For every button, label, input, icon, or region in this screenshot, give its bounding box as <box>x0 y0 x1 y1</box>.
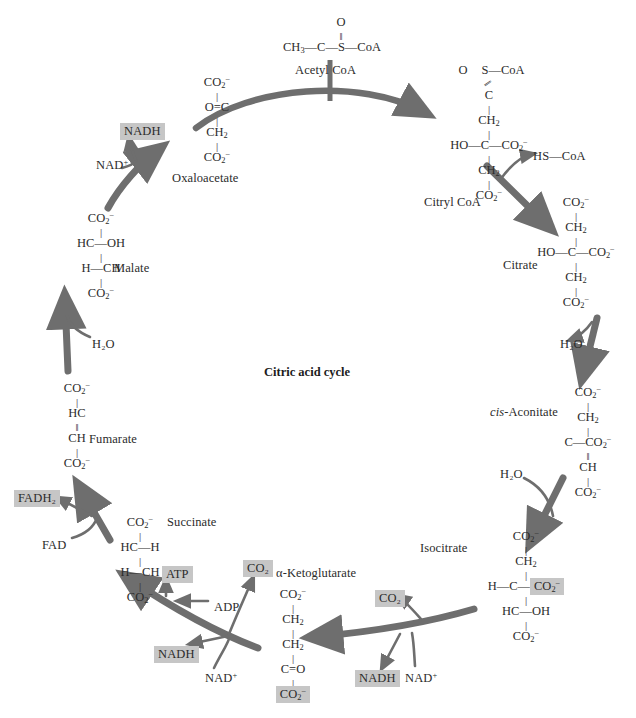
cofactor-label-text: NAD+ <box>405 671 437 685</box>
cofactor-co2-isocitrate: CO₂ <box>375 592 405 605</box>
structure-citryl-coa: O S—CoA ‖ C | CH2 | HO—C—CO2− | CH2 | CO… <box>424 64 554 204</box>
aconitate-ch: CH <box>540 461 636 476</box>
acetyl-coa-atom-o: O <box>290 16 392 31</box>
cofactor-label-text: H₂O <box>500 467 523 481</box>
cofactor-charge: + <box>232 671 237 680</box>
arrow-nad-input-ketoglutarate <box>214 636 230 668</box>
cofactor-h2o-isocitrate: H₂O <box>500 468 523 481</box>
label-isocitrate: Isocitrate <box>420 542 468 555</box>
label-acetyl-coa: Acetyl CoA <box>295 64 356 77</box>
cofactor-label-text: FADH₂ <box>14 490 60 507</box>
cofactor-label-text: FAD <box>42 538 66 552</box>
label-alpha-ketoglutarate: α-Ketoglutarate <box>276 567 356 580</box>
structure-citrate: CO2− | CH2 | HO—C—CO2− | CH2 | CO2− <box>516 196 636 311</box>
arrow-nadh-output-malate <box>129 138 136 160</box>
citrylcoa-ch2-b: CH2 <box>424 164 554 179</box>
cofactor-nadh-isocitrate: NADH <box>355 672 400 685</box>
cofactor-charge: + <box>123 158 128 167</box>
fumarate-c1: CO2− <box>44 382 110 397</box>
structure-malate: CO2− | HC—OH | H—CH | CO2− <box>62 212 140 302</box>
cofactor-fad: FAD <box>42 539 66 552</box>
structure-isocitrate: CO2− | CH2 | H—C—CO2− | HC—OH | CO2− <box>466 530 586 645</box>
succinate-c-terminal: CO2− <box>100 591 180 606</box>
label-cis-aconitate: cis-Aconitate <box>490 406 558 419</box>
isocitrate-c1: CO2− <box>466 530 586 545</box>
label-citrate: Citrate <box>503 259 538 272</box>
label-citryl-coa: Citryl CoA <box>424 196 481 209</box>
structure-fumarate: CO2− | HC ‖ CH | CO2− <box>44 382 110 472</box>
aconitate-c-terminal: CO2− <box>540 486 636 501</box>
cofactor-charge: + <box>432 671 437 680</box>
oaa-c1: CO2− <box>178 76 256 91</box>
akg-ch2-b: CH2 <box>258 638 328 653</box>
cofactor-nadh-ketoglutarate: NADH <box>154 648 199 661</box>
cofactor-label-text: CO₂ <box>243 560 273 577</box>
fumarate-hc: HC <box>44 407 110 422</box>
malate-c-terminal: CO2− <box>62 287 140 302</box>
structure-acetyl-coa: O ‖ CH3—C—S—CoA <box>272 16 392 56</box>
oaa-c4: CO2− <box>178 151 256 166</box>
structure-oxaloacetate: CO2− | O=C | CH2 | CO2− <box>178 76 256 166</box>
citrylcoa-carbonyl-c: C <box>424 89 554 104</box>
arrow-nad-input-isocitrate <box>412 633 415 666</box>
oaa-c2: O=C <box>178 101 256 116</box>
malate-hcoh: HC—OH <box>62 237 140 252</box>
label-aconitate-rest: -Aconitate <box>504 405 558 419</box>
cofactor-hs-coa: HS—CoA <box>533 150 586 163</box>
cofactor-label-text: H₂O <box>92 337 115 351</box>
cofactor-fadh2: FADH₂ <box>14 492 60 505</box>
arrow-h2o-input-malate <box>67 316 90 337</box>
citrate-c1: CO2− <box>516 196 636 211</box>
citrylcoa-thioester-head: O S—CoA <box>424 64 554 79</box>
isocitrate-highlighted-carboxylate: CO2− <box>530 578 564 595</box>
arrow-nadh-output-ketoglutarate <box>190 636 228 644</box>
cofactor-label-text: NAD+ <box>96 158 128 172</box>
diagram-center-title: Citric acid cycle <box>264 365 350 380</box>
label-cis-prefix: cis <box>490 405 504 419</box>
cofactor-h2o-fumarate: H₂O <box>92 338 115 351</box>
cofactor-nadh-malate: NADH <box>120 125 165 138</box>
label-fumarate: Fumarate <box>89 433 137 446</box>
cofactor-h2o-citrate: H₂O <box>560 338 583 351</box>
aconitate-central-c: C—CO2− <box>540 436 636 451</box>
isocitrate-hcoh: HC—OH <box>466 605 586 620</box>
acetyl-coa-backbone: CH3—C—S—CoA <box>272 41 392 56</box>
akg-terminal: CO2− <box>258 688 328 703</box>
arrow-fad-input <box>72 518 97 538</box>
citrylcoa-ch2-a: CH2 <box>424 114 554 129</box>
label-malate: Malate <box>114 262 149 275</box>
arrow-fumarate-to-malate <box>65 300 68 371</box>
arrow-isocitrate-to-alpha-ketoglutarate <box>314 609 474 637</box>
akg-c1: CO2− <box>258 588 328 603</box>
isocitrate-central-c: H—C—CO2− <box>466 580 586 595</box>
cofactor-label-text: NADH <box>154 646 199 663</box>
structure-succinate: CO2− | HC—H | H—CH | CO2− <box>100 516 180 606</box>
aconitate-c1: CO2− <box>540 386 636 401</box>
label-oxaloacetate: Oxaloacetate <box>172 172 238 185</box>
structure-alpha-ketoglutarate: CO2− | CH2 | CH2 | C=O | CO2− <box>258 588 328 703</box>
oaa-c3: CH2 <box>178 126 256 141</box>
citrate-ch2-b: CH2 <box>516 271 636 286</box>
isocitrate-c-terminal: CO2− <box>466 630 586 645</box>
cofactor-label-text: NADH <box>120 123 165 140</box>
cofactor-atp: ATP <box>162 568 193 581</box>
cofactor-adp: ADP <box>214 601 239 614</box>
cofactor-nad-plus-isocitrate: NAD+ <box>405 672 437 685</box>
malate-c1: CO2− <box>62 212 140 227</box>
fumarate-c-terminal: CO2− <box>44 457 110 472</box>
arrow-nadh-output-isocitrate <box>382 634 400 668</box>
cofactor-label-text: NADH <box>355 670 400 687</box>
cofactor-label-text: H₂O <box>560 337 583 351</box>
citrate-ch2-a: CH2 <box>516 221 636 236</box>
cofactor-label-text: ADP <box>214 600 239 614</box>
akg-ch2-a: CH2 <box>258 613 328 628</box>
cofactor-label-text: CO₂ <box>375 590 405 607</box>
citrate-c-terminal: CO2− <box>516 296 636 311</box>
cofactor-nad-plus-malate: NAD+ <box>96 159 128 172</box>
cofactor-label-text: HS—CoA <box>533 149 586 163</box>
akg-keto-c: C=O <box>258 663 328 678</box>
structure-cis-aconitate: CO2− | CH2 | C—CO2− ‖ CH | CO2− <box>540 386 636 501</box>
succinate-hch-a: HC—H <box>100 541 180 556</box>
isocitrate-ch2: CH2 <box>466 555 586 570</box>
cofactor-nad-plus-ketoglutarate: NAD+ <box>205 672 237 685</box>
